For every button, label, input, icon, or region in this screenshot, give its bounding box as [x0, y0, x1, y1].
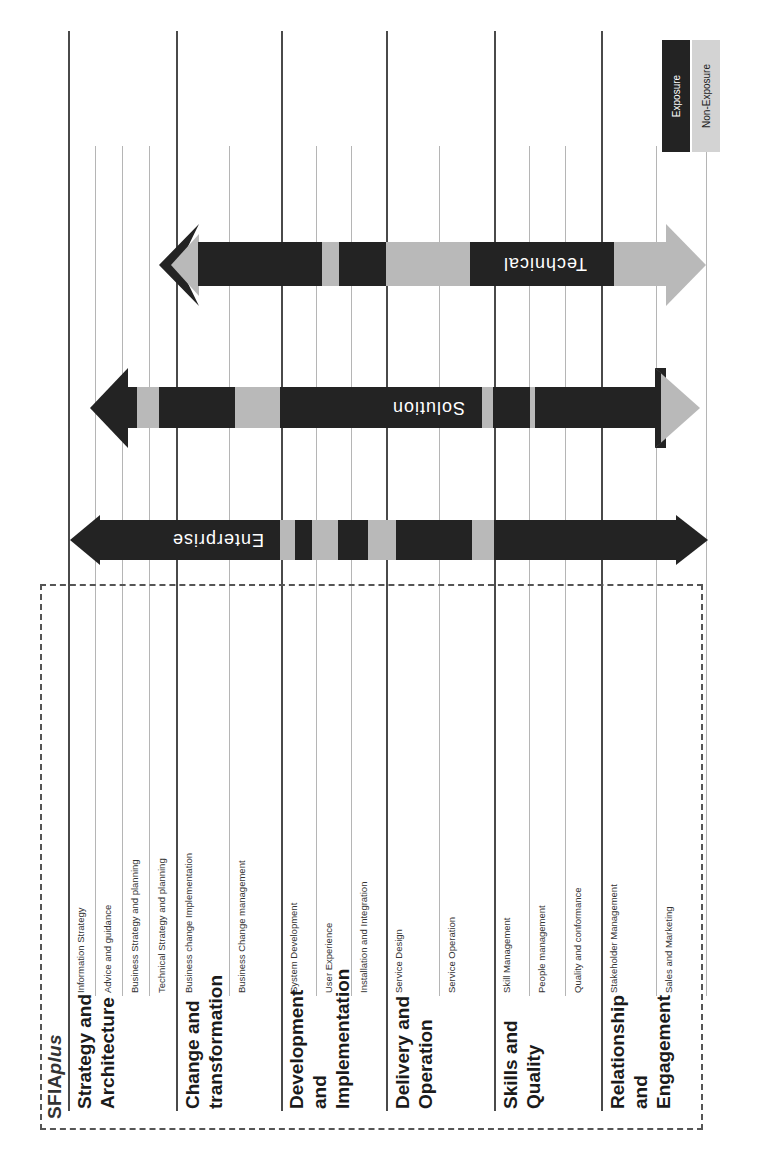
category-label-strategy-architecture: Strategy andArchitecture [73, 994, 119, 1109]
skill-label: Service Design [393, 929, 404, 993]
skill-label: Advice and guidance [102, 905, 113, 993]
skill-label: Quality and conformance [572, 887, 583, 993]
arrowhead-up-icon [70, 515, 100, 565]
category-label-delivery-operation: Delivery andOperation [391, 996, 437, 1109]
skill-label: System Development [288, 903, 299, 993]
brand-title: SFIAplus [44, 1034, 66, 1119]
skill-label: Information Strategy [75, 907, 86, 993]
skill-label: Stakeholder Management [608, 884, 619, 993]
category-frame [40, 584, 703, 1130]
legend-non-exposure: Non-Exposure [692, 40, 720, 152]
solution-arrow-label: Solution [380, 387, 476, 428]
category-label-change-transformation: Change andtransformation [181, 975, 227, 1109]
category-label-relationship-engagement: RelationshipandEngagement [606, 995, 675, 1109]
arrowhead-down-icon [666, 224, 706, 306]
category-label-skills-quality: Skills andQuality [499, 1020, 545, 1109]
skill-divider [706, 146, 707, 996]
skill-label: Business Strategy and planning [129, 859, 140, 993]
skill-label: Business Change management [236, 860, 247, 993]
skill-label: User Experience [323, 923, 334, 993]
arrowhead-down-icon [655, 368, 701, 448]
sfia-exposure-diagram: SFIAplus Strategy andArchitecture Change… [0, 0, 758, 1161]
enterprise-arrow-label: Enterprise [170, 519, 266, 561]
skill-label: Skill Management [501, 917, 512, 993]
arrowhead-down-icon [676, 515, 708, 565]
skill-label: Service Operation [446, 917, 457, 993]
arrowhead-up-icon [159, 224, 199, 306]
skill-label: Technical Strategy and planning [156, 858, 167, 993]
skill-label: Installation and Integration [358, 882, 369, 993]
legend-exposure: Exposure [662, 40, 690, 152]
arrowhead-up-icon [90, 368, 128, 448]
technical-arrow-label: Technical [490, 242, 600, 286]
skill-label: Business change Implementation [183, 853, 194, 993]
skill-label: People management [536, 905, 547, 993]
skill-label: Sales and Marketing [663, 906, 674, 993]
